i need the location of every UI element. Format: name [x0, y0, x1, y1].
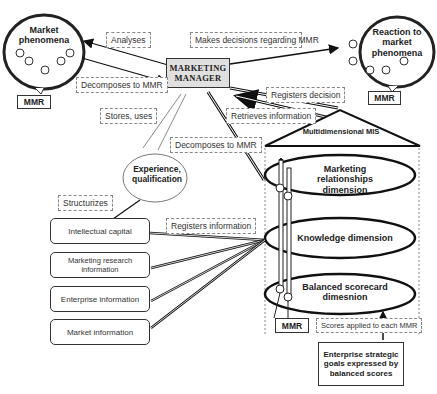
label-registers-information: Registers information — [166, 218, 256, 234]
label-makes-decisions: Makes decisions regarding MMR — [190, 32, 302, 48]
dimension-marketing-relationships: Marketing relationships dimension — [295, 164, 395, 195]
label-retrieves-information: Retrieves information — [226, 108, 316, 124]
mmr-right-callout: MMR — [368, 91, 401, 105]
mmr-bottom-callout: MMR — [275, 318, 309, 333]
mmr-left-callout: MMR — [17, 95, 51, 109]
label-stores-uses: Stores, uses — [100, 108, 157, 124]
label-decomposes-left: Decomposes to MMR — [76, 77, 168, 93]
label-scores-applied: Scores applied to each MMR — [316, 318, 422, 333]
reaction-node: Reaction to market phenomena — [365, 27, 429, 58]
source-marketing-research: Marketing research information — [50, 252, 150, 278]
label-decomposes-mid: Decomposes to MMR — [170, 137, 262, 153]
enterprise-goals-note: Enterprise strategic goals expressed by … — [318, 342, 404, 386]
experience-node: Experience, qualification — [132, 165, 182, 185]
mis-title: Multidimensional MIS — [296, 128, 386, 137]
diagram-canvas: Market phenomena MMR Reaction to market … — [0, 0, 437, 394]
dimension-knowledge: Knowledge dimension — [295, 233, 395, 243]
market-phenomena-node: Market phenomena — [14, 25, 74, 46]
source-intellectual-capital: Intellectual capital — [50, 218, 150, 244]
dimension-balanced-scorecard: Balanced scorecard dimesnion — [300, 282, 390, 303]
marketing-manager-node: MARKETING MANAGER — [166, 58, 230, 88]
label-registers-decision: Registers decision — [266, 87, 345, 103]
source-market-information: Market information — [50, 319, 150, 345]
source-enterprise-information: Enterprise information — [50, 286, 150, 312]
label-analyses: Analyses — [106, 32, 151, 48]
label-structurizes: Structurizes — [58, 195, 113, 211]
